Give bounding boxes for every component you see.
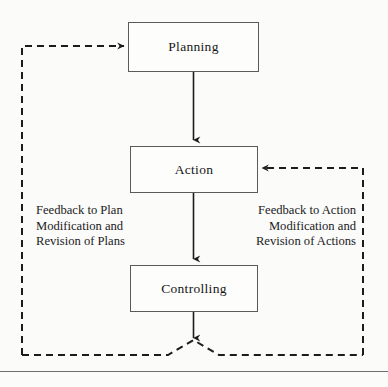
label-feedback-to-plan: Feedback to Plan Modification and Revisi… [36,203,125,250]
label-feedback-to-plan-line1: Feedback to Plan [36,203,125,219]
connector-feedback-to-planning [22,46,124,355]
label-feedback-to-plan-line3: Revision of Plans [36,234,125,250]
node-planning-label: Planning [168,40,218,54]
label-feedback-to-action-line1: Feedback to Action [256,203,356,219]
node-action: Action [130,146,258,193]
label-feedback-to-plan-line2: Modification and [36,219,125,235]
flowchart-diagram: Planning Action Controlling Feedback to … [0,0,388,387]
node-controlling-label: Controlling [161,282,227,296]
node-planning: Planning [128,22,259,72]
node-controlling: Controlling [130,265,258,312]
connector-feedback-to-action [262,168,363,355]
label-feedback-to-action-line2: Modification and [256,219,356,235]
label-feedback-to-action: Feedback to Action Modification and Revi… [256,203,356,250]
page-bottom-rule [0,371,388,372]
feedback-bus-bottom [22,340,363,355]
label-feedback-to-action-line3: Revision of Actions [256,234,356,250]
node-action-label: Action [175,163,214,177]
